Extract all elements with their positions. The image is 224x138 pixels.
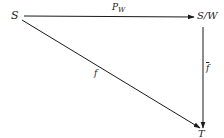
edge-label-fbar: f — [206, 64, 209, 73]
arrow-s-to-sw — [24, 16, 194, 17]
node-s-mod-w: S/W — [197, 11, 218, 21]
edge-label-pw-sub: W — [118, 6, 125, 14]
arrow-s-to-t — [22, 20, 200, 128]
node-s: S — [11, 10, 19, 21]
node-t: T — [198, 129, 205, 138]
edge-label-f: f — [94, 69, 97, 78]
edge-label-pw: PW — [112, 3, 125, 14]
diagram-canvas — [0, 0, 224, 138]
